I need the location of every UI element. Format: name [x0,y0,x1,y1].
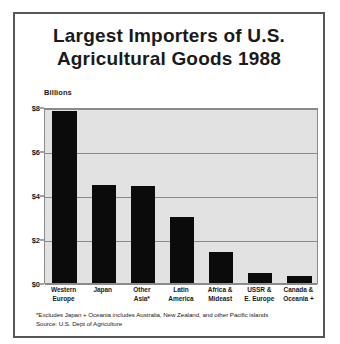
gridline [45,284,317,285]
chart-title-line-1: Largest Importers of U.S. [13,24,325,47]
bar [92,185,116,283]
x-axis-labels: WesternEuropeJapanOtherAsia*LatinAmerica… [44,286,318,308]
x-axis-category-label: Canada &Oceania + [272,286,325,303]
footnote-excludes: *Excludes Japan + Oceania includes Austr… [36,311,321,320]
bar [287,276,311,283]
bar [52,111,76,283]
footnote-source: Source: U.S. Dept of Agriculture [36,320,321,329]
x-axis-label-line: Canada & [272,286,325,295]
bars-group [45,109,317,283]
chart-title-line-2: Agricultural Goods 1988 [13,47,325,70]
y-axis-units-label: Billions [44,88,72,97]
bar [248,273,272,283]
bar [170,217,194,283]
chart-footnotes: *Excludes Japan + Oceania includes Austr… [36,311,321,328]
x-axis-label-line: Oceania + [272,295,325,304]
chart-figure: Largest Importers of U.S. Agricultural G… [0,0,340,344]
x-axis-label-line: Europe [37,295,90,304]
bar [131,186,155,283]
bar [209,252,233,283]
chart-title: Largest Importers of U.S. Agricultural G… [13,24,325,70]
plot-area [44,108,318,284]
